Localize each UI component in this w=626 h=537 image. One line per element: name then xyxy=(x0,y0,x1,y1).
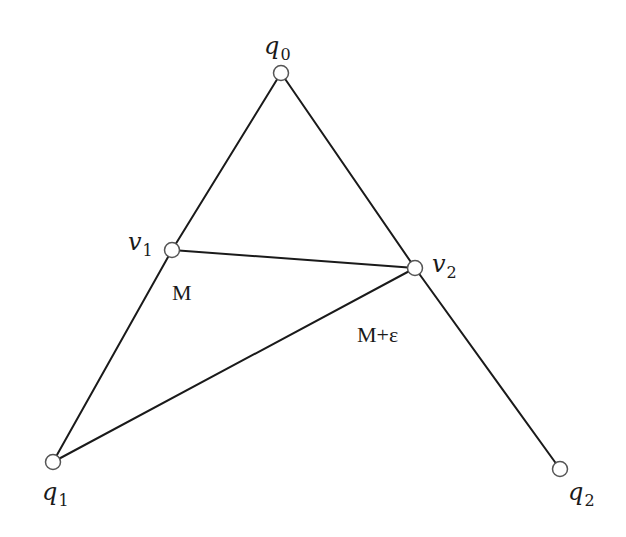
weight-label-m: M xyxy=(172,280,192,305)
edge-v2-q2 xyxy=(415,268,560,469)
node-labels: q0v1v2q1q2 xyxy=(42,32,595,510)
edge-v1-v2 xyxy=(172,250,415,268)
edge-q0-v2 xyxy=(281,73,415,268)
node-label-v1: v1 xyxy=(128,228,153,260)
node-label-q2: q2 xyxy=(568,478,595,510)
edges xyxy=(53,73,560,469)
weight-label-m-plus-epsilon: M+ε xyxy=(357,322,398,347)
node-q0 xyxy=(274,66,289,81)
node-v1 xyxy=(165,243,180,258)
edge-q0-v1 xyxy=(172,73,281,250)
node-label-q0: q0 xyxy=(264,32,291,64)
nodes xyxy=(46,66,568,477)
node-v2 xyxy=(408,261,423,276)
node-q1 xyxy=(46,455,61,470)
node-label-v2: v2 xyxy=(432,250,457,282)
graph-diagram: q0v1v2q1q2 M M+ε xyxy=(0,0,626,537)
node-q2 xyxy=(553,462,568,477)
node-label-q1: q1 xyxy=(42,478,69,510)
